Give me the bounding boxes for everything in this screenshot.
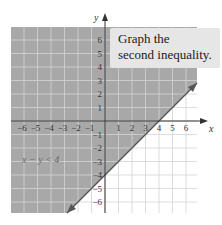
- tick-label: 5: [170, 123, 175, 133]
- tick-label: −5: [31, 123, 41, 133]
- tick-label: −6: [92, 197, 102, 207]
- tick-label: 1: [116, 123, 121, 133]
- tick-label: 4: [98, 62, 103, 72]
- y-axis-arrow-icon: [102, 13, 108, 21]
- instruction-callout: Graph the second inequality.: [110, 28, 220, 68]
- tick-label: 4: [157, 123, 162, 133]
- tick-label: −2: [92, 143, 102, 153]
- tick-label: 6: [184, 123, 189, 133]
- tick-label: −3: [92, 157, 102, 167]
- tick-label: 3: [143, 123, 148, 133]
- y-axis-label: y: [93, 12, 99, 23]
- tick-label: 3: [98, 76, 103, 86]
- region-label: x − y < 4: [21, 154, 59, 165]
- tick-label: −1: [92, 130, 102, 140]
- tick-label: 5: [98, 49, 103, 59]
- tick-label: 2: [130, 123, 135, 133]
- tick-label: −6: [17, 123, 27, 133]
- tick-label: −5: [92, 184, 102, 194]
- tick-label: 2: [98, 89, 103, 99]
- x-axis-label: x: [208, 123, 214, 134]
- x-axis-arrow-icon: [200, 118, 208, 124]
- tick-label: −2: [71, 123, 81, 133]
- tick-label: −3: [58, 123, 68, 133]
- tick-label: 6: [98, 35, 103, 45]
- tick-label: 1: [98, 103, 103, 113]
- tick-label: −4: [92, 170, 102, 180]
- callout-line-2: second inequality.: [118, 47, 220, 63]
- tick-label: −4: [44, 123, 54, 133]
- callout-line-1: Graph the: [118, 31, 220, 47]
